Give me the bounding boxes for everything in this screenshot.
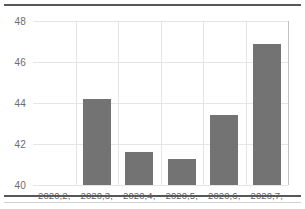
y-axis-tick-label: 40 <box>14 180 26 191</box>
bar-slot: 2020,7, <box>246 21 289 185</box>
plot-area: 4042444648 2020,2,2020,3,2020,4,2020,5,2… <box>33 21 288 185</box>
y-axis-tick-label: 48 <box>14 16 26 27</box>
bar[interactable] <box>83 99 111 185</box>
top-divider-rule <box>4 4 301 6</box>
bar-slot: 2020,2, <box>33 21 76 185</box>
right-axis-line <box>288 21 289 185</box>
bar[interactable] <box>210 115 238 185</box>
chart-page: 4042444648 2020,2,2020,3,2020,4,2020,5,2… <box>0 0 305 209</box>
bottom-divider-rule <box>4 195 301 197</box>
bar-slot: 2020,3, <box>76 21 119 185</box>
bar-slot: 2020,5, <box>161 21 204 185</box>
bar[interactable] <box>168 159 196 185</box>
y-axis-tick-label: 42 <box>14 139 26 150</box>
y-axis-tick-label: 44 <box>14 98 26 109</box>
bar-series: 2020,2,2020,3,2020,4,2020,5,2020,6,2020,… <box>33 21 288 185</box>
bottom-divider-rule-soft <box>4 202 301 203</box>
bar-slot: 2020,6, <box>203 21 246 185</box>
gridline-y-40 <box>33 185 288 186</box>
bar[interactable] <box>125 152 153 185</box>
bar-chart: 4042444648 2020,2,2020,3,2020,4,2020,5,2… <box>0 8 305 194</box>
bar-slot: 2020,4, <box>118 21 161 185</box>
y-axis-tick-label: 46 <box>14 57 26 68</box>
bar[interactable] <box>253 44 281 185</box>
